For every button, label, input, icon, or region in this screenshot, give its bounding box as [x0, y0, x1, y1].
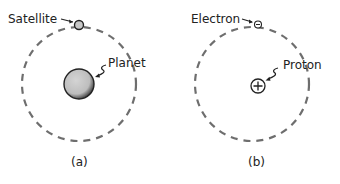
panel-a: Satellite Planet (a)	[8, 12, 146, 169]
planet-label: Planet	[108, 56, 146, 70]
caption-b: (b)	[248, 155, 265, 169]
proton-pointer-icon	[266, 68, 279, 81]
planet-icon	[64, 69, 94, 99]
electron-label: Electron	[191, 12, 240, 26]
electron-icon	[255, 21, 262, 28]
proton-icon	[251, 79, 265, 93]
panel-b: Electron Proton (b)	[191, 12, 322, 169]
satellite-label: Satellite	[8, 12, 57, 26]
satellite-arrow-icon	[61, 19, 73, 24]
caption-a: (a)	[71, 155, 88, 169]
planet-pointer-icon	[95, 65, 106, 78]
orbit-diagram: Satellite Planet (a) Electron Prot	[0, 0, 340, 184]
electron-arrow-icon	[242, 19, 253, 24]
satellite-icon	[75, 21, 84, 30]
proton-label: Proton	[283, 58, 322, 72]
